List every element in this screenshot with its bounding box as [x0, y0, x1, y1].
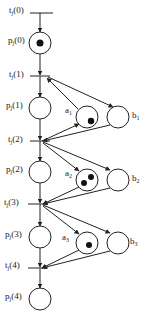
- place-b2: [107, 169, 129, 191]
- arc: [42, 251, 110, 268]
- token: [86, 242, 92, 248]
- place-a1: [76, 106, 98, 128]
- label-b2: b2: [132, 173, 140, 184]
- label-t2: tj(2): [8, 134, 23, 145]
- label-t3: tj(3): [4, 197, 19, 208]
- arc: [43, 142, 110, 170]
- arc: [48, 77, 113, 107]
- place-p2: [29, 161, 51, 183]
- place-p1: [29, 97, 51, 119]
- label-t4: tj(4): [5, 260, 20, 271]
- arc: [43, 187, 79, 204]
- label-p2: pj(2): [6, 164, 23, 175]
- token: [88, 118, 94, 124]
- token: [88, 174, 94, 180]
- label-b3: b3: [130, 236, 138, 247]
- label-a3: a3: [62, 232, 69, 243]
- label-t0: tj(0): [9, 5, 24, 16]
- place-p4: [29, 288, 51, 310]
- token: [81, 180, 87, 186]
- label-p1: pj(1): [6, 100, 23, 111]
- arc: [43, 205, 110, 233]
- label-t1: tj(1): [9, 69, 24, 80]
- arc: [43, 188, 110, 204]
- arc: [43, 143, 79, 171]
- arc: [42, 124, 79, 141]
- petri-net-diagram: tj(0) pj(0) tj(1) pj(1) tj(2) pj(2) tj(3…: [0, 0, 145, 320]
- label-p4: pj(4): [5, 291, 22, 302]
- label-a1: a1: [65, 105, 72, 116]
- label-b1: b1: [132, 110, 140, 121]
- label-p0: pj(0): [8, 35, 25, 46]
- label-p3: pj(3): [5, 229, 22, 240]
- token: [37, 40, 44, 47]
- arc: [42, 250, 79, 268]
- arc: [43, 125, 110, 141]
- label-a2: a2: [65, 168, 72, 179]
- arc: [47, 78, 78, 109]
- place-b3: [107, 232, 129, 254]
- place-b1: [107, 106, 129, 128]
- place-p3: [29, 226, 51, 248]
- place-a2: [76, 169, 98, 191]
